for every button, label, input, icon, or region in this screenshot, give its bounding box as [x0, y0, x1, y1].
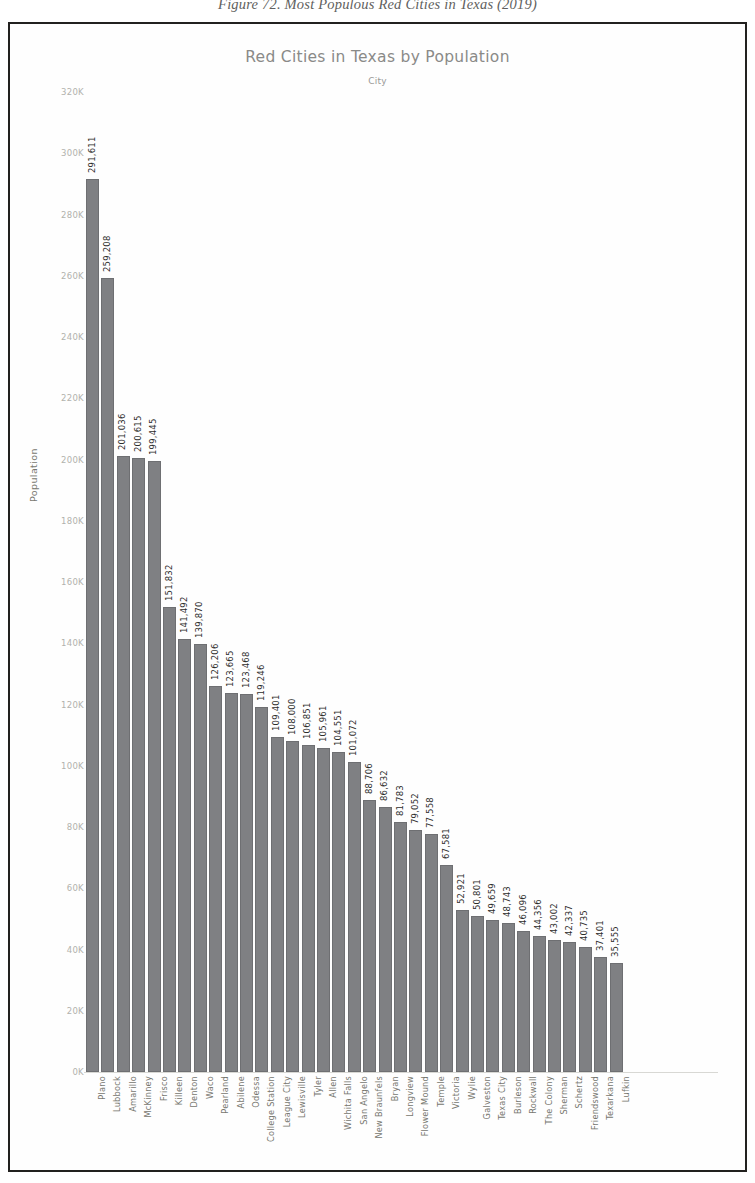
bar-value-label: 67,581: [441, 828, 451, 859]
x-axis-tick-label: Burleson: [513, 1076, 523, 1114]
bar-rect[interactable]: [517, 931, 530, 1072]
bar[interactable]: 40,735: [579, 92, 592, 1072]
bar-rect[interactable]: [486, 920, 499, 1072]
bar[interactable]: 43,002: [548, 92, 561, 1072]
bar-rect[interactable]: [409, 830, 422, 1072]
bar[interactable]: 199,445: [148, 92, 161, 1072]
y-axis-tick-label: 20K: [38, 1006, 84, 1016]
bar-rect[interactable]: [348, 762, 361, 1072]
bar[interactable]: 106,851: [302, 92, 315, 1072]
bar-value-label: 108,000: [287, 699, 297, 736]
bar-rect[interactable]: [471, 916, 484, 1072]
bar-rect[interactable]: [363, 800, 376, 1072]
x-axis-tick-label: Killeen: [174, 1076, 184, 1105]
bar[interactable]: 44,356: [533, 92, 546, 1072]
bar[interactable]: 139,870: [194, 92, 207, 1072]
y-axis-tick-label: 320K: [38, 87, 84, 97]
bar[interactable]: 81,783: [394, 92, 407, 1072]
bar[interactable]: 104,551: [332, 92, 345, 1072]
bar-value-label: 123,665: [225, 651, 235, 688]
bar-rect[interactable]: [194, 644, 207, 1072]
x-axis-tick-label: Plano: [97, 1076, 107, 1100]
bar[interactable]: 101,072: [348, 92, 361, 1072]
bar-rect[interactable]: [594, 957, 607, 1072]
bar-value-label: 141,492: [179, 596, 189, 633]
bar-value-label: 40,735: [579, 910, 589, 941]
bar-rect[interactable]: [209, 686, 222, 1073]
bar-rect[interactable]: [425, 834, 438, 1072]
bar[interactable]: 119,246: [255, 92, 268, 1072]
chart-frame: Red Cities in Texas by Population City P…: [8, 22, 747, 1172]
bar-rect[interactable]: [86, 179, 99, 1072]
bar[interactable]: 201,036: [117, 92, 130, 1072]
x-axis-tick-label: Galveston: [482, 1076, 492, 1119]
bar-rect[interactable]: [440, 865, 453, 1072]
bar-rect[interactable]: [533, 936, 546, 1072]
bar[interactable]: 67,581: [440, 92, 453, 1072]
bar[interactable]: 35,555: [610, 92, 623, 1072]
bar-value-label: 35,555: [610, 926, 620, 957]
bar-value-label: 101,072: [348, 720, 358, 757]
y-axis-tick-label: 280K: [38, 210, 84, 220]
bar[interactable]: 48,743: [502, 92, 515, 1072]
bar[interactable]: 123,468: [240, 92, 253, 1072]
bar-rect[interactable]: [117, 456, 130, 1072]
x-axis-tick-label: Wichita Falls: [343, 1076, 353, 1130]
bar-rect[interactable]: [240, 694, 253, 1072]
x-axis-tick-label: Tyler: [313, 1076, 323, 1097]
bar-rect[interactable]: [379, 807, 392, 1072]
bar-rect[interactable]: [178, 639, 191, 1072]
bar-rect[interactable]: [456, 910, 469, 1072]
y-axis-tick-label: 200K: [38, 455, 84, 465]
bar[interactable]: 291,611: [86, 92, 99, 1072]
bar-rect[interactable]: [132, 458, 145, 1072]
bar[interactable]: 123,665: [225, 92, 238, 1072]
bar-rect[interactable]: [271, 737, 284, 1072]
bar-rect[interactable]: [563, 942, 576, 1072]
bar-rect[interactable]: [286, 741, 299, 1072]
y-axis-tick-label: 220K: [38, 393, 84, 403]
bar[interactable]: 200,615: [132, 92, 145, 1072]
bar[interactable]: 259,208: [101, 92, 114, 1072]
bar[interactable]: 151,832: [163, 92, 176, 1072]
bar[interactable]: 141,492: [178, 92, 191, 1072]
bar-rect[interactable]: [332, 752, 345, 1072]
bar-rect[interactable]: [302, 745, 315, 1072]
bar-value-label: 291,611: [87, 136, 97, 173]
bar[interactable]: 77,558: [425, 92, 438, 1072]
bar-rect[interactable]: [548, 940, 561, 1072]
bar[interactable]: 105,961: [317, 92, 330, 1072]
x-axis-tick-label: Longview: [405, 1076, 415, 1117]
bar[interactable]: 50,801: [471, 92, 484, 1072]
chart-subtitle: City: [10, 76, 745, 86]
y-axis-tick-label: 300K: [38, 148, 84, 158]
bar-rect[interactable]: [317, 748, 330, 1073]
bar-rect[interactable]: [163, 607, 176, 1072]
y-axis-tick-label: 80K: [38, 822, 84, 832]
bar-value-label: 88,706: [364, 763, 374, 794]
bar[interactable]: 42,337: [563, 92, 576, 1072]
bar-value-label: 151,832: [164, 564, 174, 601]
bar-value-label: 119,246: [256, 664, 266, 701]
bar-rect[interactable]: [255, 707, 268, 1072]
bar-rect[interactable]: [101, 278, 114, 1072]
figure-caption: Figure 72. Most Populous Red Cities in T…: [0, 0, 755, 13]
bar[interactable]: 37,401: [594, 92, 607, 1072]
bar[interactable]: 88,706: [363, 92, 376, 1072]
bar[interactable]: 49,659: [486, 92, 499, 1072]
bar-rect[interactable]: [502, 923, 515, 1072]
bar-value-label: 104,551: [333, 709, 343, 746]
bar-rect[interactable]: [148, 461, 161, 1072]
bar[interactable]: 126,206: [209, 92, 222, 1072]
bar[interactable]: 46,096: [517, 92, 530, 1072]
bar[interactable]: 86,632: [379, 92, 392, 1072]
bar[interactable]: 79,052: [409, 92, 422, 1072]
bar-rect[interactable]: [579, 947, 592, 1072]
bar[interactable]: 109,401: [271, 92, 284, 1072]
bar-value-label: 43,002: [549, 903, 559, 934]
bar-rect[interactable]: [394, 822, 407, 1072]
bar[interactable]: 52,921: [456, 92, 469, 1072]
bar-rect[interactable]: [610, 963, 623, 1072]
bar-rect[interactable]: [225, 693, 238, 1072]
bar[interactable]: 108,000: [286, 92, 299, 1072]
